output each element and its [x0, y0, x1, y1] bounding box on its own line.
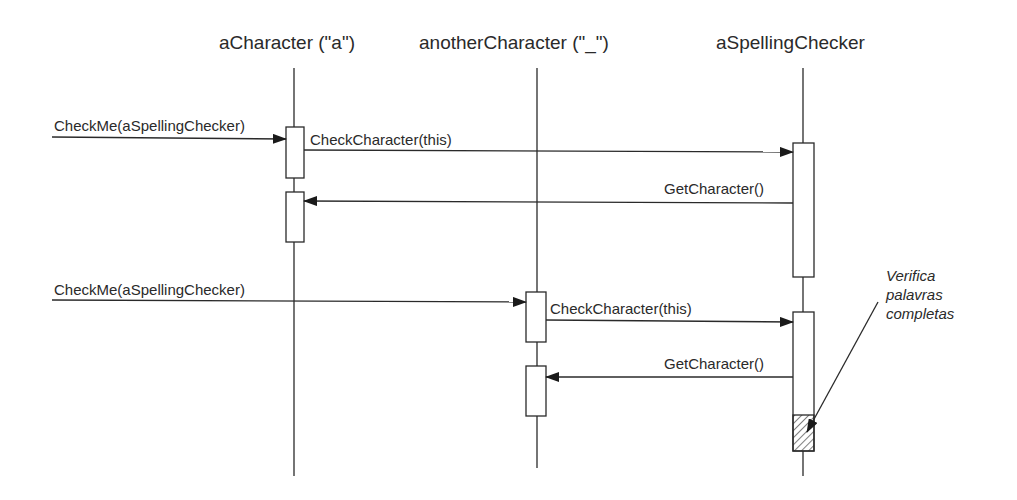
message-checkcharacter-1-arrow	[304, 150, 793, 152]
note-line-1: Verifica	[886, 266, 954, 285]
message-label-checkcharacter-1: CheckCharacter(this)	[310, 132, 452, 147]
object-title-anothercharacter: anotherCharacter ("_")	[419, 33, 609, 52]
message-checkme-2-arrow	[52, 300, 526, 302]
object-title-acharacter: aCharacter ("a")	[219, 33, 355, 52]
hatched-word-check-segment	[793, 415, 814, 451]
message-label-getcharacter-2: GetCharacter()	[664, 356, 764, 371]
message-getcharacter-1-arrow	[304, 201, 793, 203]
diagram-graphics	[0, 0, 1017, 500]
activation-acharacter-1	[286, 127, 304, 178]
note-line-2: palavras	[886, 285, 954, 304]
sequence-diagram: aCharacter ("a") anotherCharacter ("_") …	[0, 0, 1017, 500]
note-line-3: completas	[886, 304, 954, 323]
activation-acharacter-2	[286, 192, 304, 242]
activation-anothercharacter-1	[526, 292, 546, 342]
activation-anothercharacter-2	[526, 366, 546, 416]
note-pointer-arrow	[807, 302, 878, 432]
message-label-getcharacter-1: GetCharacter()	[664, 181, 764, 196]
message-label-checkme-2: CheckMe(aSpellingChecker)	[54, 282, 245, 297]
note-verifica-palavras-completas: Verifica palavras completas	[886, 266, 954, 323]
object-title-aspellingchecker: aSpellingChecker	[716, 33, 865, 52]
message-checkcharacter-2-arrow	[546, 320, 793, 322]
message-label-checkcharacter-2: CheckCharacter(this)	[550, 301, 692, 316]
activation-aspellingchecker-1	[793, 143, 814, 277]
message-label-checkme-1: CheckMe(aSpellingChecker)	[54, 118, 245, 133]
message-checkme-1-arrow	[52, 137, 286, 139]
